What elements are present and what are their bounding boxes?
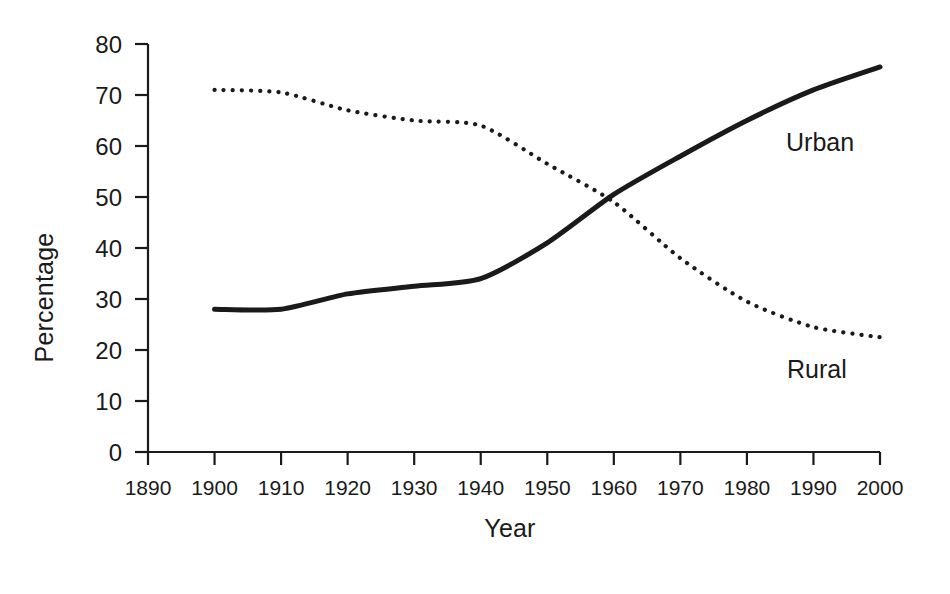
- x-tick-label: 1990: [790, 476, 837, 499]
- y-tick-label: 10: [95, 388, 122, 415]
- y-tick-label: 80: [95, 31, 122, 58]
- y-tick-label: 50: [95, 184, 122, 211]
- x-tick-label: 1900: [191, 476, 238, 499]
- x-tick-label: 1930: [391, 476, 438, 499]
- x-tick-label: 1920: [324, 476, 371, 499]
- y-tick-label: 30: [95, 286, 122, 313]
- x-tick-label: 1960: [590, 476, 637, 499]
- y-tick-label: 20: [95, 337, 122, 364]
- y-tick-label: 60: [95, 133, 122, 160]
- x-axis-ticks: 1890190019101920193019401950196019701980…: [125, 452, 904, 499]
- y-tick-label: 40: [95, 235, 122, 262]
- y-tick-label: 70: [95, 82, 122, 109]
- x-tick-label: 1890: [125, 476, 172, 499]
- x-tick-label: 1940: [457, 476, 504, 499]
- chart-figure: Percentage Year Urban Rural 010203040506…: [0, 0, 950, 594]
- x-tick-label: 1910: [258, 476, 305, 499]
- x-tick-label: 1970: [657, 476, 704, 499]
- data-series-group: [215, 67, 880, 337]
- y-tick-label: 0: [109, 439, 122, 466]
- x-tick-label: 1950: [524, 476, 571, 499]
- y-axis-ticks: 01020304050607080: [95, 31, 148, 466]
- chart-plot-area: 01020304050607080 1890190019101920193019…: [0, 0, 950, 594]
- x-tick-label: 2000: [857, 476, 904, 499]
- x-tick-label: 1980: [724, 476, 771, 499]
- series-line-urban: [215, 67, 880, 310]
